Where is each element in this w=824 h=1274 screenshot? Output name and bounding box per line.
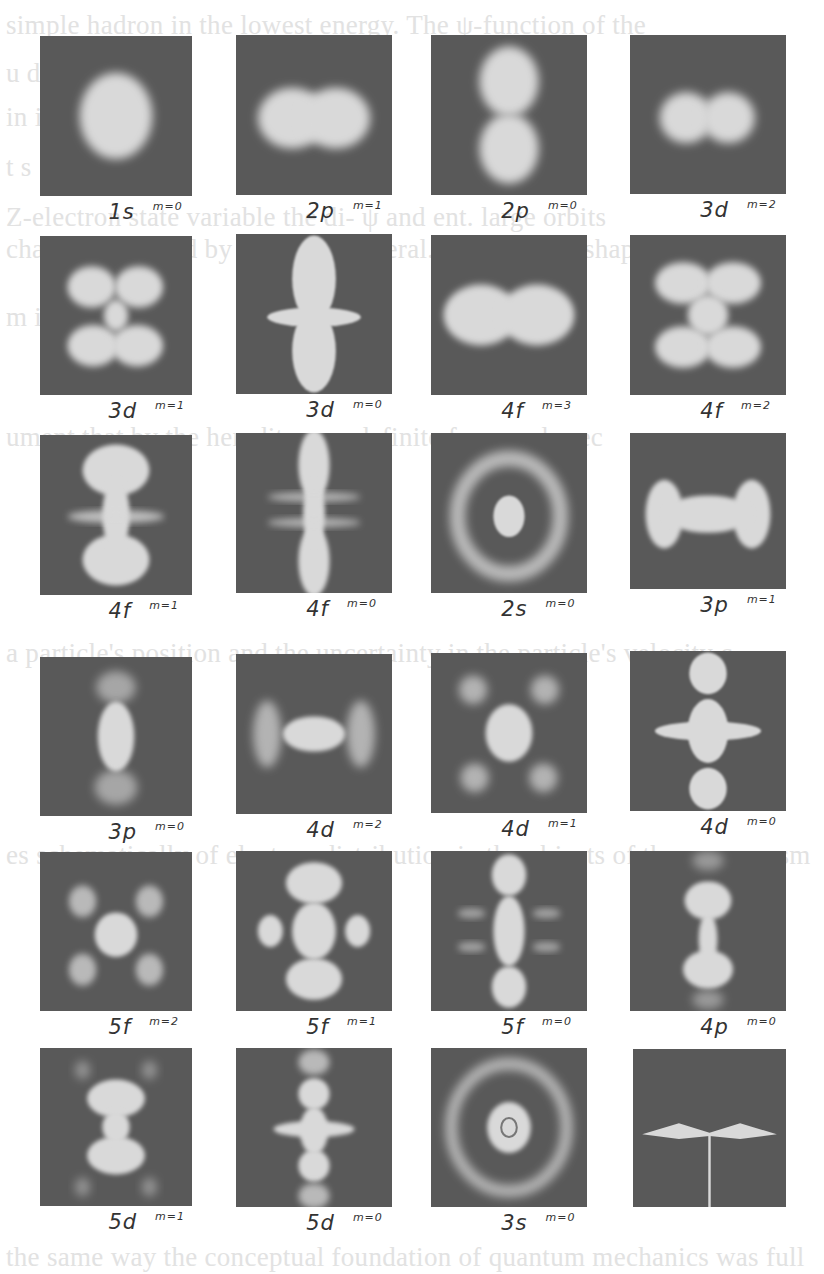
orbital-quantum-label: 4f [700,399,723,423]
magnetic-number-label: m=3 [542,399,572,412]
orbital-panel-3d-m2 [630,35,786,194]
magnetic-number-label: m=0 [153,200,183,213]
orbital-density-image [630,651,786,811]
orbital-label: 3pm=0 [108,820,185,844]
orbital-panel-4d-m1 [431,653,587,813]
orbital-panel-2p-m0 [431,35,587,195]
orbital-quantum-label: 3s [501,1211,527,1235]
orbital-label: 4dm=0 [700,815,777,839]
magnetic-number-label: m=0 [353,398,383,411]
magnetic-number-label: m=0 [747,815,777,828]
orbital-density-image [431,433,587,593]
orbital-density-image [40,852,192,1011]
orbital-quantum-label: 5d [306,1211,335,1235]
orbital-quantum-label: 4f [108,599,131,623]
orbital-density-image [630,235,786,395]
orbital-quantum-label: 3d [700,198,729,222]
orbital-panel-5f-m0 [431,851,587,1011]
magnetic-number-label: m=1 [155,1210,185,1223]
magnetic-number-label: m=1 [347,1015,377,1028]
orbital-panel-4d-m0 [630,651,786,811]
orbital-quantum-label: 4f [501,399,524,423]
orbital-density-image [236,654,392,814]
orbital-label: 3pm=1 [700,593,777,617]
orbital-label: 4dm=1 [501,817,578,841]
magnetic-number-label: m=0 [542,1015,572,1028]
magnetic-number-label: m=0 [546,1211,576,1224]
orbital-density-image [236,35,392,195]
orbital-label: 4dm=2 [306,818,383,842]
orbital-quantum-label: 2s [501,597,527,621]
orbital-panel-2p-m1 [236,35,392,195]
orbital-label: 4fm=2 [700,399,771,423]
orbital-density-image [40,435,192,595]
orbital-density-image [431,35,587,195]
magnetic-number-label: m=2 [741,399,771,412]
orbital-label: 2sm=0 [501,597,575,621]
orbital-label: 4fm=1 [108,599,179,623]
magnetic-number-label: m=0 [155,820,185,833]
orbital-density-image [40,657,192,816]
orbital-quantum-label: 3d [306,398,335,422]
orbital-quantum-label: 2p [501,199,530,223]
orbital-quantum-label: 4d [306,818,335,842]
magnetic-number-label: m=1 [747,593,777,606]
magnetic-number-label: m=2 [149,1015,179,1028]
orbital-quantum-label: 4f [306,597,329,621]
magnetic-number-label: m=2 [747,198,777,211]
orbital-density-image [431,235,587,395]
orbital-label: 3dm=2 [700,198,777,222]
orbital-panel-3d-m1 [40,236,192,395]
orbital-label: 4fm=3 [501,399,572,423]
orbital-panel-2s-m0 [431,433,587,593]
orbital-density-image [236,851,392,1011]
orbital-panel-4f-m3 [431,235,587,395]
orbital-panel-4f-m2 [630,235,786,395]
orbital-density-image [630,35,786,194]
orbital-panel-3p-m0 [40,657,192,816]
orbital-panel-4d-m2 [236,654,392,814]
orbital-quantum-label: 5f [306,1015,329,1039]
orbital-label: 4fm=0 [306,597,377,621]
orbital-panel-4p-m0 [630,851,786,1011]
orbital-quantum-label: 3p [108,820,137,844]
magnetic-number-label: m=1 [548,817,578,830]
orbital-quantum-label: 3p [700,593,729,617]
orbital-quantum-label: 5d [108,1210,137,1234]
orbital-panel-1s-m0 [40,36,192,196]
orbital-density-image [431,653,587,813]
magnetic-number-label: m=0 [546,597,576,610]
orbital-quantum-label: 1s [108,200,134,224]
orbital-density-image [431,1048,587,1207]
orbital-panel-3p-m1 [630,433,786,589]
orbital-density-image [236,234,392,394]
orbital-label: 5dm=0 [306,1211,383,1235]
orbital-label: 3dm=0 [306,398,383,422]
orbital-label: 5fm=1 [306,1015,377,1039]
orbital-label: 2pm=0 [501,199,578,223]
ghost-text-line: the same way the conceptual foundation o… [6,1240,824,1274]
orbital-label: 5dm=1 [108,1210,185,1234]
orbital-quantum-label: 2p [306,199,335,223]
magnetic-number-label: m=0 [747,1015,777,1028]
magnetic-number-label: m=1 [155,399,185,412]
orbital-label: 1sm=0 [108,200,182,224]
magnetic-number-label: m=1 [149,599,179,612]
orbital-quantum-label: 4d [501,817,530,841]
magnetic-number-label: m=0 [353,1211,383,1224]
orbital-panel-3d-m0 [236,234,392,394]
orbital-density-image [431,851,587,1011]
orbital-panel-4f-m0 [236,433,392,593]
orbital-density-image [40,1048,192,1206]
orbital-panel-4f-m1 [40,435,192,595]
orbital-density-image [40,36,192,196]
orbital-label: 2pm=1 [306,199,383,223]
orbital-density-image [630,433,786,589]
orbital-density-image [236,1048,392,1207]
orbital-panel-3s-m0 [431,1048,587,1207]
orbital-panel-5d-m0 [236,1048,392,1207]
orbital-quantum-label: 5f [108,1015,131,1039]
orbital-label: 5fm=0 [501,1015,572,1039]
orbital-density-image [633,1049,786,1207]
orbital-panel-unlabeled- [633,1049,786,1207]
